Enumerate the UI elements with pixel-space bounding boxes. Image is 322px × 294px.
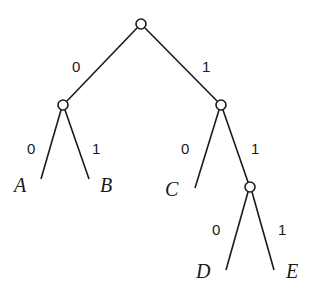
- edge-n1-n11: [223, 110, 248, 182]
- leaf-label-a: A: [12, 174, 27, 196]
- internal-node-1: [216, 100, 226, 110]
- leaf-label-b: B: [100, 174, 112, 196]
- leaf-label-e: E: [285, 260, 298, 282]
- internal-node-11: [245, 182, 255, 192]
- edge-label-n11-1: 1: [278, 221, 286, 238]
- edge-label-n0-0: 0: [27, 140, 35, 157]
- edge-label-n11-0: 0: [212, 221, 220, 238]
- edge-n11-E: [252, 192, 274, 270]
- leaf-label-c: C: [165, 178, 179, 200]
- root-node: [136, 19, 146, 29]
- edge-label-n1-0: 0: [181, 140, 189, 157]
- edge-label-root-0: 0: [72, 58, 80, 75]
- edge-n11-D: [226, 192, 248, 270]
- code-tree-diagram: 0 1 0 1 0 1 0 1 A B C D E: [0, 0, 322, 294]
- edge-n0-B: [65, 110, 89, 179]
- edge-label-n0-1: 1: [92, 140, 100, 157]
- internal-node-0: [58, 100, 68, 110]
- edge-n0-A: [41, 110, 61, 179]
- edge-n1-C: [195, 110, 219, 188]
- edge-label-n1-1: 1: [251, 140, 259, 157]
- edge-label-root-1: 1: [202, 58, 210, 75]
- leaf-label-d: D: [195, 260, 211, 282]
